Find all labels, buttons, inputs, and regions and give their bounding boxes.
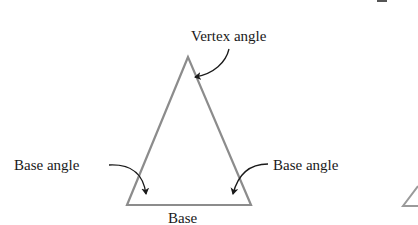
right-base-angle-label: Base angle bbox=[273, 158, 338, 173]
triangle-shape bbox=[127, 57, 251, 205]
isosceles-triangle-diagram: Vertex angle Base angle Base angle Base bbox=[0, 0, 418, 225]
right-base-angle-arrow bbox=[233, 164, 268, 194]
vertex-angle-label: Vertex angle bbox=[191, 29, 266, 44]
left-base-angle-arrow bbox=[109, 165, 146, 194]
left-base-angle-label: Base angle bbox=[14, 158, 79, 173]
clipped-text-fragment bbox=[377, 0, 387, 2]
base-label: Base bbox=[168, 211, 197, 225]
vertex-angle-arrow bbox=[195, 49, 229, 77]
partial-triangle-shape bbox=[403, 186, 418, 206]
